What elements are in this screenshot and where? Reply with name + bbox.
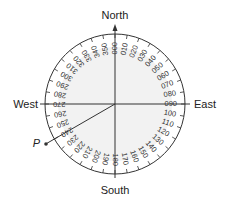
bearing-label: 000 — [110, 42, 119, 55]
east-label: East — [194, 98, 216, 110]
north-label: North — [102, 9, 129, 21]
point-p-label: P — [33, 137, 41, 149]
bearing-label: 270 — [53, 100, 66, 109]
north-arrow-icon — [113, 24, 118, 31]
west-label: West — [13, 98, 38, 110]
compass-diagram: 0000100200300400500600700800901001101201… — [0, 0, 225, 201]
south-label: South — [101, 184, 130, 196]
point-p-marker — [44, 142, 48, 146]
bearing-label: 180 — [111, 153, 120, 166]
bearing-label: 090 — [164, 99, 177, 108]
